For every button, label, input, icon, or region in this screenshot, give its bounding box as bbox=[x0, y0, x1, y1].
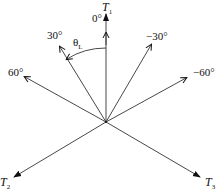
label-T2: T2 bbox=[0, 176, 10, 191]
label-theta-L: θL bbox=[73, 37, 83, 51]
label-0deg: 0° bbox=[92, 13, 102, 24]
label-60deg: 60° bbox=[8, 67, 23, 78]
vector-neg60deg bbox=[106, 78, 186, 122]
label-T1: T1 bbox=[102, 1, 112, 16]
vector-30deg bbox=[60, 47, 106, 122]
label-30deg: 30° bbox=[47, 30, 62, 41]
diagram-lines bbox=[0, 0, 220, 192]
vector-T3 bbox=[106, 122, 200, 177]
label-neg60deg: −60° bbox=[193, 67, 215, 78]
label-neg30deg: −30° bbox=[146, 31, 168, 42]
vector-T2 bbox=[14, 122, 106, 177]
vector-diagram: T1 0° T2 T3 30° −30° 60° −60° θL bbox=[0, 0, 220, 192]
vector-neg30deg bbox=[106, 45, 151, 122]
label-T3: T3 bbox=[205, 176, 215, 191]
vector-60deg bbox=[25, 77, 106, 122]
